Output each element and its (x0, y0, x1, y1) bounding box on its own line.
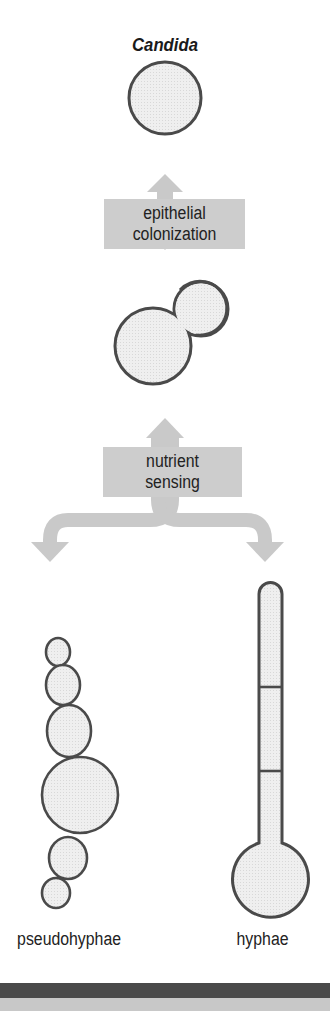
footer-bar-dark (0, 983, 330, 998)
footer-bar-light (0, 998, 330, 1011)
yeast-cell (129, 62, 201, 134)
hyphae-cell (233, 583, 309, 918)
pseudohyphae-label: pseudohyphae (17, 929, 121, 950)
step-label-line1: epithelial (112, 203, 236, 224)
step-label-line2: sensing (111, 472, 233, 493)
budding-yeast-cell (115, 281, 228, 384)
step-label-line1: nutrient (111, 451, 233, 472)
hyphae-label: hyphae (237, 929, 289, 950)
step-label-nutrient-sensing: nutrient sensing (111, 451, 233, 493)
pseudohyphae-cells (42, 638, 118, 908)
diagram-title: Candida (20, 34, 310, 56)
step-label-line2: colonization (112, 224, 236, 245)
candida-morphology-diagram (0, 0, 330, 1011)
step-label-epithelial-colonization: epithelial colonization (112, 203, 236, 245)
